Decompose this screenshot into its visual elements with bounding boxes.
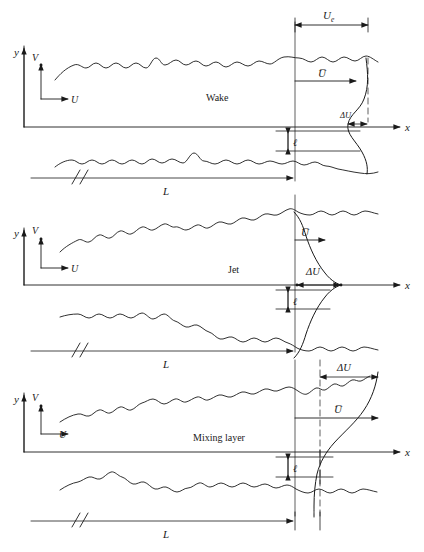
wake-inset-u-label: U (71, 94, 79, 105)
jet-deltau-left-dot (296, 284, 299, 287)
wake-inset-v-label: V (32, 52, 40, 63)
wake-upper-interface (55, 56, 378, 80)
ml-ubar-label: U̅ (334, 403, 343, 415)
panel-jet (24, 195, 400, 358)
panel-mixing-layer (24, 360, 400, 530)
wake-ue-subscript: e (331, 15, 335, 24)
jet-ubar-label: U̅ (301, 226, 310, 238)
jet-deltau-label: ΔU (305, 266, 321, 277)
wake-L-break-2 (80, 170, 88, 184)
ml-lower-interface (60, 472, 377, 493)
jet-L-break-2 (80, 343, 88, 357)
ml-L-break-2 (80, 513, 88, 527)
jet-deltau-right-dot (340, 284, 343, 287)
wake-flow-name-label: Wake (206, 92, 229, 103)
ml-x-axis-label: x (404, 446, 410, 458)
wake-y-axis-label: y (13, 46, 19, 58)
jet-length-label: L (162, 358, 169, 370)
ml-flow-name-label: Mixing layer (193, 432, 246, 443)
figure-canvas: y x V U Wake U e U̅ ΔU ℓ L y x V U Jet U… (0, 0, 424, 552)
figure-free-shear-flows: y x V U Wake U e U̅ ΔU ℓ L y x V U Jet U… (0, 0, 424, 552)
jet-scale-label: ℓ (293, 296, 297, 307)
jet-L-break-1 (72, 343, 80, 357)
wake-ubar-label: U̅ (318, 67, 327, 79)
ml-L-break-1 (72, 513, 80, 527)
ml-velocity-profile (314, 372, 378, 517)
jet-upper-interface (60, 209, 378, 252)
ml-deltau-label: ΔU (336, 362, 352, 373)
jet-inset-v-label: V (32, 225, 40, 236)
jet-inset-u-label: U (71, 263, 79, 274)
jet-inset-origin-dot (40, 238, 43, 241)
jet-flow-name-label: Jet (228, 264, 239, 275)
ml-scale-label: ℓ (293, 463, 297, 474)
wake-inset-origin-dot (40, 64, 43, 67)
wake-deltau-label: ΔU (339, 110, 352, 120)
wake-scale-label: ℓ (293, 137, 297, 148)
jet-lower-interface (60, 313, 378, 351)
wake-x-axis-label: x (404, 121, 410, 133)
ml-inset-v-label: V (32, 392, 40, 403)
ml-length-label: L (162, 528, 169, 540)
jet-y-axis-label: y (13, 227, 19, 239)
wake-lower-interface (55, 153, 378, 174)
ml-y-axis-label: y (13, 393, 19, 405)
jet-x-axis-label: x (404, 279, 410, 291)
ml-inset-origin-dot (40, 405, 43, 408)
ml-upper-interface (60, 376, 370, 422)
wake-L-break-1 (72, 170, 80, 184)
wake-length-label: L (162, 185, 169, 197)
ml-inset-u-label: U (59, 429, 67, 440)
